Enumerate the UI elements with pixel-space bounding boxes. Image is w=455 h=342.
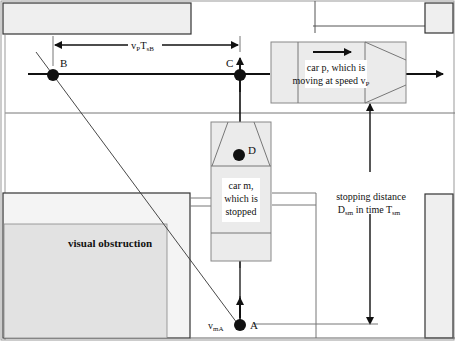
point-b-label: B <box>60 57 67 69</box>
car-p: car p, which is moving at speed vP <box>271 42 406 103</box>
car-m-label-3: stopped <box>225 206 256 217</box>
point-b-dot <box>47 69 59 81</box>
point-d-label: D <box>248 144 256 156</box>
stopping-label-2: Dsm in time Tsm <box>338 204 401 217</box>
point-a-dot <box>234 319 246 331</box>
building-top-right <box>425 3 453 33</box>
building-top-left <box>3 3 191 34</box>
car-m: car m, which is stopped <box>211 122 271 261</box>
stopping-label-1: stopping distance <box>336 191 406 202</box>
intersection-diagram: visual obstruction vPTsB car p, which is… <box>0 0 455 342</box>
building-bottom-right <box>425 194 453 338</box>
obstruction-label: visual obstruction <box>68 237 152 249</box>
point-c-dot <box>234 69 246 81</box>
point-a-label: A <box>250 319 258 331</box>
dimension-label: vPTsB <box>131 40 154 53</box>
car-m-label-1: car m, <box>229 180 254 191</box>
car-m-label-2: which is <box>224 193 258 204</box>
v-ma-label: vmA <box>208 320 224 333</box>
point-d-dot <box>233 149 245 161</box>
point-c-label: C <box>226 57 233 69</box>
car-p-label-1: car p, which is <box>307 62 365 73</box>
